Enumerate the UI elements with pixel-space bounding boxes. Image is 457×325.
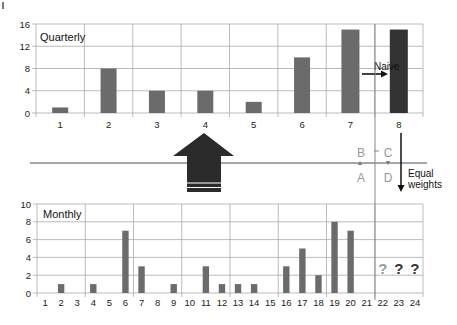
monthly-x-tick: 22 bbox=[378, 297, 389, 308]
monthly-bar bbox=[235, 284, 241, 293]
monthly-y-tick: 10 bbox=[20, 199, 31, 210]
monthly-x-tick: 18 bbox=[313, 297, 324, 308]
monthly-x-tick: 1 bbox=[42, 297, 47, 308]
quarterly-x-tick: 5 bbox=[251, 119, 256, 130]
point-label-b: B bbox=[357, 146, 365, 160]
monthly-title: Monthly bbox=[43, 208, 82, 220]
monthly-x-tick: 6 bbox=[123, 297, 128, 308]
monthly-y-tick: 4 bbox=[26, 252, 31, 263]
quarterly-x-tick: 8 bbox=[396, 119, 401, 130]
monthly-x-tick: 15 bbox=[265, 297, 276, 308]
monthly-x-tick: 5 bbox=[107, 297, 112, 308]
monthly-x-tick: 10 bbox=[185, 297, 196, 308]
unknown-value-mark: ? bbox=[410, 260, 419, 277]
monthly-bar bbox=[122, 231, 128, 293]
quarterly-bar bbox=[101, 69, 117, 114]
quarterly-x-tick: 3 bbox=[154, 119, 159, 130]
point-label-a: A bbox=[357, 171, 365, 185]
equal-weights-label: weights bbox=[407, 179, 442, 190]
monthly-x-tick: 17 bbox=[297, 297, 308, 308]
quarterly-bar bbox=[197, 91, 213, 113]
quarterly-x-tick: 7 bbox=[348, 119, 353, 130]
monthly-x-tick: 9 bbox=[171, 297, 176, 308]
monthly-bar bbox=[347, 231, 353, 293]
monthly-y-tick: 6 bbox=[26, 234, 31, 245]
point-label-c: C bbox=[384, 146, 393, 160]
monthly-x-tick: 8 bbox=[155, 297, 160, 308]
quarterly-title: Quarterly bbox=[40, 31, 86, 43]
quarterly-bar bbox=[246, 102, 262, 113]
point-label-d: D bbox=[384, 171, 393, 185]
monthly-bar bbox=[299, 249, 305, 294]
monthly-bar bbox=[90, 284, 96, 293]
quarterly-bar bbox=[149, 91, 165, 113]
quarterly-bar bbox=[52, 107, 68, 113]
quarterly-y-tick: 12 bbox=[19, 41, 30, 52]
monthly-x-tick: 13 bbox=[233, 297, 244, 308]
monthly-x-tick: 23 bbox=[394, 297, 405, 308]
monthly-x-tick: 19 bbox=[329, 297, 340, 308]
monthly-x-tick: 14 bbox=[249, 297, 260, 308]
quarterly-x-tick: 4 bbox=[203, 119, 208, 130]
monthly-bar bbox=[138, 266, 144, 293]
unknown-value-mark: ? bbox=[394, 260, 403, 277]
equal-weights-label: Equal bbox=[408, 168, 434, 179]
quarterly-monthly-chart: 048121612345678QuarterlyNaive02468101234… bbox=[0, 0, 457, 325]
monthly-bar bbox=[251, 284, 257, 293]
monthly-x-tick: 24 bbox=[410, 297, 421, 308]
quarterly-y-tick: 0 bbox=[25, 108, 30, 119]
monthly-y-tick: 2 bbox=[26, 270, 31, 281]
monthly-x-tick: 12 bbox=[217, 297, 228, 308]
monthly-x-tick: 21 bbox=[361, 297, 372, 308]
naive-label: Naive bbox=[374, 61, 400, 72]
monthly-x-tick: 20 bbox=[345, 297, 356, 308]
monthly-bar bbox=[203, 266, 209, 293]
monthly-bar bbox=[315, 275, 321, 293]
monthly-x-tick: 7 bbox=[139, 297, 144, 308]
monthly-y-tick: 8 bbox=[26, 216, 31, 227]
monthly-x-tick: 11 bbox=[201, 297, 211, 308]
quarterly-y-tick: 4 bbox=[25, 85, 30, 96]
equal-weights-arrow-head bbox=[398, 185, 405, 192]
quarterly-bar bbox=[341, 30, 359, 113]
monthly-bar bbox=[171, 284, 177, 293]
quarterly-bar bbox=[294, 57, 310, 113]
monthly-x-tick: 3 bbox=[75, 297, 80, 308]
quarterly-x-tick: 2 bbox=[106, 119, 111, 130]
monthly-x-tick: 2 bbox=[58, 297, 63, 308]
monthly-bar bbox=[219, 284, 225, 293]
quarterly-x-tick: 6 bbox=[299, 119, 304, 130]
monthly-y-tick: 0 bbox=[26, 288, 31, 299]
quarterly-y-tick: 16 bbox=[19, 19, 30, 30]
monthly-bar bbox=[283, 266, 289, 293]
unknown-value-mark: ? bbox=[378, 260, 387, 277]
monthly-bar bbox=[58, 284, 64, 293]
quarterly-y-tick: 8 bbox=[25, 63, 30, 74]
monthly-x-tick: 4 bbox=[91, 297, 96, 308]
quarterly-x-tick: 1 bbox=[58, 119, 63, 130]
monthly-bar bbox=[331, 222, 337, 293]
monthly-x-tick: 16 bbox=[281, 297, 292, 308]
